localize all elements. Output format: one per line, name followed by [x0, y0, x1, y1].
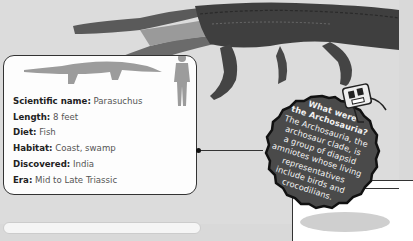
fact-value: Parasuchus [94, 96, 143, 106]
fact-diet: Diet: Fish [13, 125, 142, 141]
fact-value: India [73, 159, 94, 169]
fact-label: Diet: [13, 127, 36, 137]
facts-list: Scientific name: Parasuchus Length: 8 fe… [13, 94, 142, 188]
fact-label: Scientific name: [13, 96, 91, 106]
fact-discovered: Discovered: India [13, 157, 142, 173]
connector-dot [196, 148, 201, 153]
connector-line [197, 150, 263, 151]
fact-length: Length: 8 feet [13, 110, 142, 126]
fact-era: Era: Mid to Late Triassic [13, 173, 142, 189]
fact-label: Length: [13, 112, 50, 122]
fact-scientific-name: Scientific name: Parasuchus [13, 94, 142, 110]
robot-mascot-icon [334, 70, 390, 128]
fact-label: Discovered: [13, 159, 70, 169]
fact-label: Era: [13, 175, 32, 185]
fact-habitat: Habitat: Coast, swamp [13, 141, 142, 157]
fact-value: Fish [39, 127, 56, 137]
fact-value: 8 feet [53, 112, 78, 122]
panel-graphic [300, 212, 390, 232]
fact-label: Habitat: [13, 143, 53, 153]
parasuchus-silhouette-icon [22, 58, 162, 90]
fact-card: Scientific name: Parasuchus Length: 8 fe… [3, 55, 197, 195]
lower-panel [3, 222, 201, 234]
fact-value: Mid to Late Triassic [35, 175, 117, 185]
human-silhouette-icon [170, 55, 194, 108]
fact-value: Coast, swamp [55, 143, 115, 153]
